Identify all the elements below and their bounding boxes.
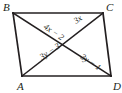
edge-ab: [13, 13, 22, 76]
vertex-label-c: C: [106, 1, 114, 13]
segment-label-od: 3y − 1: [78, 51, 103, 72]
parallelogram-diagram: B C A D 4x − 2 3x 3y − 3 3y − 1: [0, 0, 122, 93]
edge-cd: [103, 13, 111, 76]
vertex-label-d: D: [112, 80, 121, 92]
geometry-figure: B C A D 4x − 2 3x 3y − 3 3y − 1: [0, 0, 122, 93]
segment-label-ao: 3y − 3: [37, 41, 62, 62]
vertex-label-b: B: [3, 1, 10, 13]
vertex-label-a: A: [16, 80, 24, 92]
segment-label-oc: 3x: [71, 13, 84, 26]
